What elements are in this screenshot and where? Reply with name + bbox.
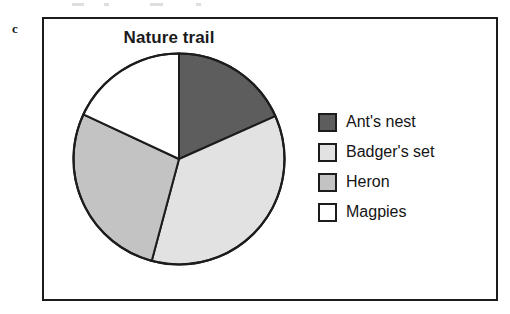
legend-swatch-icon	[318, 113, 337, 132]
chart-legend: Ant's nest Badger's set Heron Magpies	[318, 107, 498, 227]
scan-artifact	[104, 3, 109, 6]
legend-item-label: Magpies	[346, 204, 406, 220]
legend-item-ants-nest: Ant's nest	[318, 107, 498, 137]
legend-item-label: Badger's set	[346, 144, 434, 160]
scan-artifact	[196, 3, 201, 6]
panel-letter: c	[12, 22, 18, 35]
chart-title: Nature trail	[44, 28, 294, 48]
legend-swatch-icon	[318, 173, 337, 192]
scan-artifact	[72, 3, 84, 6]
scan-artifact	[150, 3, 163, 6]
legend-swatch-icon	[318, 203, 337, 222]
pie-chart	[70, 50, 288, 268]
legend-item-magpies: Magpies	[318, 197, 498, 227]
figure-panel: Nature trail Ant's nest Badger's set Her…	[42, 17, 498, 301]
legend-item-heron: Heron	[318, 167, 498, 197]
legend-swatch-icon	[318, 143, 337, 162]
pie-chart-svg	[70, 50, 288, 268]
legend-item-label: Ant's nest	[346, 114, 416, 130]
legend-item-label: Heron	[346, 174, 390, 190]
legend-item-badgers-set: Badger's set	[318, 137, 498, 167]
